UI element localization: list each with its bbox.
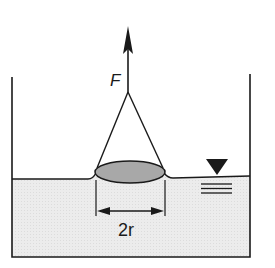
force-arrow: [123, 26, 133, 92]
water-body: [12, 175, 250, 257]
string-left: [97, 92, 128, 168]
ring-disk: [95, 161, 165, 183]
diagram-canvas: F 2r: [0, 0, 275, 268]
inverted-triangle-icon: [206, 159, 228, 175]
diameter-label: 2r: [118, 220, 134, 240]
string-right: [128, 92, 163, 168]
force-label: F: [110, 71, 122, 90]
